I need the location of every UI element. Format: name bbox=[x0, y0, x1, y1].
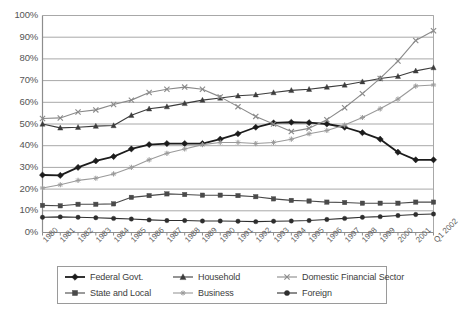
y-axis-tick-label: 50% bbox=[2, 119, 38, 129]
legend-item-label: Household bbox=[198, 272, 240, 282]
legend-marker-icon bbox=[64, 288, 86, 298]
series-household bbox=[40, 65, 436, 130]
x-axis-labels: 1980198119821983198419851986198719881989… bbox=[0, 0, 444, 70]
y-axis-tick-label: 10% bbox=[2, 205, 38, 215]
legend-item: Domestic Financial Sector bbox=[276, 272, 394, 282]
chart-legend: Federal Govt.HouseholdDomestic Financial… bbox=[57, 266, 387, 304]
legend-item: Business bbox=[172, 288, 276, 298]
legend-item-label: Federal Govt. bbox=[90, 272, 143, 282]
legend-marker-icon bbox=[276, 272, 298, 282]
legend-item: Foreign bbox=[276, 288, 394, 298]
legend-item: Federal Govt. bbox=[64, 272, 172, 282]
legend-item-label: Foreign bbox=[302, 288, 332, 298]
legend-marker-icon bbox=[172, 288, 194, 298]
series-state-and-local bbox=[40, 192, 435, 208]
legend-marker-icon bbox=[64, 272, 86, 282]
legend-item-label: Domestic Financial Sector bbox=[302, 272, 404, 282]
y-axis-tick-label: 70% bbox=[2, 75, 38, 85]
legend-item: Household bbox=[172, 272, 276, 282]
series-federal-govt bbox=[39, 119, 436, 178]
y-axis-tick-label: 60% bbox=[2, 97, 38, 107]
legend-item-label: State and Local bbox=[90, 288, 151, 298]
y-axis-tick-label: 0% bbox=[2, 227, 38, 237]
legend-marker-icon bbox=[172, 272, 194, 282]
legend-marker-icon bbox=[276, 288, 298, 298]
legend-item-label: Business bbox=[198, 288, 234, 298]
series-foreign bbox=[40, 212, 435, 224]
legend-item: State and Local bbox=[64, 288, 172, 298]
y-axis-tick-label: 30% bbox=[2, 162, 38, 172]
y-axis-tick-label: 20% bbox=[2, 184, 38, 194]
y-axis-tick-label: 40% bbox=[2, 140, 38, 150]
